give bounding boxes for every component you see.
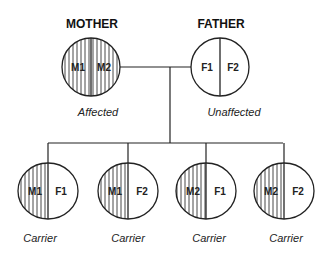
mother-title: MOTHER — [66, 17, 118, 31]
child-circle-4 — [254, 163, 314, 219]
mother-allele-2: M2 — [97, 62, 111, 73]
child-circle-2 — [98, 163, 158, 219]
father-status: Unaffected — [207, 106, 260, 118]
child-circle-3 — [176, 163, 236, 219]
child-1-status: Carrier — [23, 232, 57, 244]
child-2-allele-2: F2 — [136, 186, 148, 197]
child-4-status: Carrier — [269, 232, 303, 244]
child-4-allele-1: M2 — [264, 186, 278, 197]
mother-allele-1: M1 — [71, 62, 85, 73]
child-3-allele-2: F1 — [214, 186, 226, 197]
father-title: FATHER — [197, 17, 244, 31]
child-2-allele-1: M1 — [108, 186, 122, 197]
child-3-allele-1: M2 — [186, 186, 200, 197]
father-allele-2: F2 — [227, 62, 239, 73]
child-1-allele-2: F1 — [55, 186, 67, 197]
father-allele-1: F1 — [201, 62, 213, 73]
pedigree-diagram — [0, 0, 333, 255]
child-4-allele-2: F2 — [292, 186, 304, 197]
child-2-status: Carrier — [111, 232, 145, 244]
father-circle — [191, 38, 249, 96]
child-1-allele-1: M1 — [28, 186, 42, 197]
child-circle-1 — [18, 163, 78, 219]
mother-status: Affected — [78, 106, 118, 118]
child-3-status: Carrier — [192, 232, 226, 244]
